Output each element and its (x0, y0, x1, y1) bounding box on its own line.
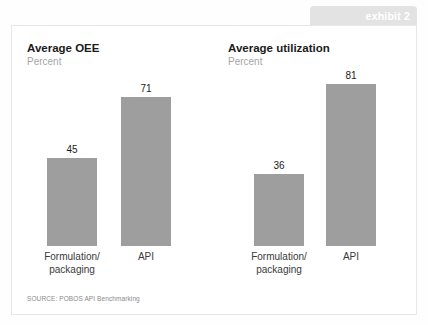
chart-panel-average-oee: Average OEE Percent 45 71 Formulation/ p… (12, 26, 212, 314)
bar-group-formulation-packaging: 36 (254, 71, 304, 246)
bar-value-label: 71 (121, 83, 171, 95)
bar-formulation-packaging (254, 174, 304, 246)
chart-title-average-utilization: Average utilization (228, 42, 330, 54)
category-label-line1: Formulation/ (44, 251, 100, 262)
category-label-line1: Formulation/ (251, 251, 307, 262)
bar-value-label: 45 (47, 144, 97, 156)
category-label-line2: packaging (256, 264, 302, 275)
bar-value-label: 36 (254, 160, 304, 172)
plot-area-average-oee: 45 71 (12, 71, 212, 246)
category-label-api: API (100, 251, 192, 264)
category-label-line2: packaging (49, 264, 95, 275)
category-axis-average-utilization: Formulation/ packaging API (212, 251, 418, 287)
chart-panel-average-utilization: Average utilization Percent 36 81 Formul… (212, 26, 418, 314)
chart-title-average-oee: Average OEE (27, 42, 99, 54)
category-label-api: API (305, 251, 397, 264)
bar-formulation-packaging (47, 158, 97, 246)
bar-value-label: 81 (326, 70, 376, 82)
chart-subtitle-average-oee: Percent (27, 56, 61, 67)
source-note: SOURCE: POBOS API Benchmarking (27, 295, 140, 302)
chart-subtitle-average-utilization: Percent (228, 56, 262, 67)
bar-api (121, 97, 171, 246)
category-axis-average-oee: Formulation/ packaging API (12, 251, 212, 287)
exhibit-card: Average OEE Percent 45 71 Formulation/ p… (11, 25, 417, 315)
bar-api (326, 84, 376, 246)
plot-area-average-utilization: 36 81 (212, 71, 418, 246)
exhibit-tab: exhibit 2 (310, 6, 417, 26)
bar-group-api: 81 (326, 71, 376, 246)
bar-group-formulation-packaging: 45 (47, 71, 97, 246)
exhibit-tab-label: exhibit 2 (366, 9, 410, 23)
bar-group-api: 71 (121, 71, 171, 246)
